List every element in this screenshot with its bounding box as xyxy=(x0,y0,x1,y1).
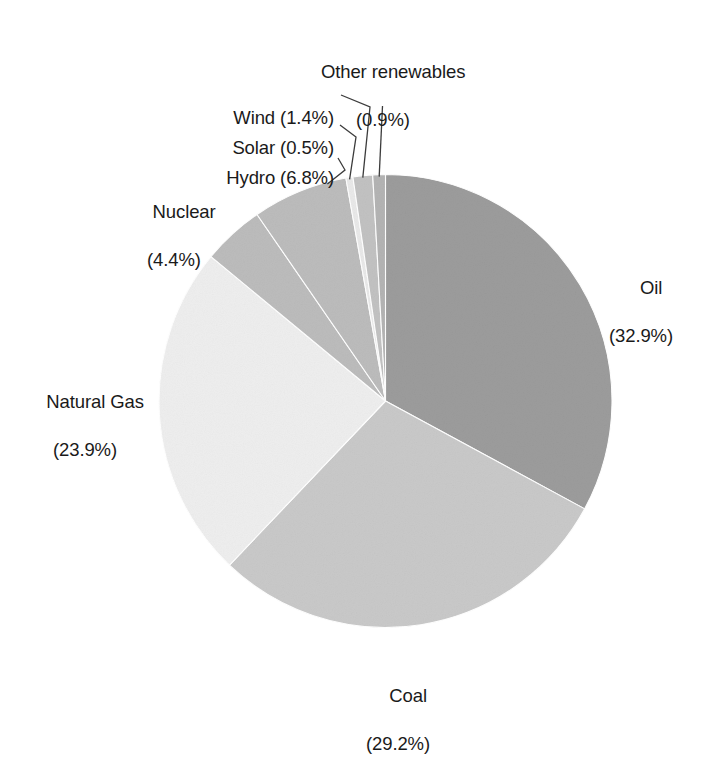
slice-label-oil: Oil (32.9%) xyxy=(586,252,696,396)
slice-label-coal-line1: Coal xyxy=(389,685,427,706)
slice-label-natural-gas: Natural Gas (23.9%) xyxy=(10,366,160,510)
slice-label-nuclear: Nuclear (4.4%) xyxy=(100,176,248,320)
slice-label-natural-gas-line1: Natural Gas xyxy=(46,391,144,412)
slice-label-oil-line1: Oil xyxy=(640,277,662,298)
slice-label-nuclear-line1: Nuclear xyxy=(153,201,216,222)
slice-label-oil-line2: (32.9%) xyxy=(586,324,696,348)
slice-label-nuclear-line2: (4.4%) xyxy=(100,248,248,272)
slice-label-coal: Coal (29.2%) xyxy=(322,660,474,758)
slice-label-coal-line2: (29.2%) xyxy=(322,732,474,756)
slice-label-natural-gas-line2: (23.9%) xyxy=(10,438,160,462)
slice-label-other-renewables-line1: Other renewables xyxy=(321,61,465,82)
